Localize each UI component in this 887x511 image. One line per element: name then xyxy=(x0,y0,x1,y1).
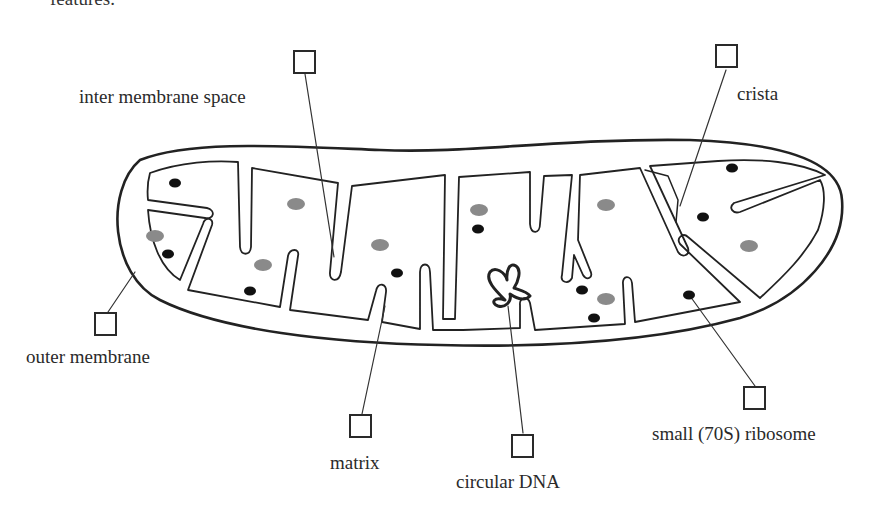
circular-dna-answer-box[interactable] xyxy=(511,434,534,458)
inter-membrane-space-answer-box[interactable] xyxy=(293,50,316,74)
small-ribosome-answer-box[interactable] xyxy=(743,386,766,410)
label-inter-membrane-space: inter membrane space xyxy=(79,86,246,108)
label-circular-dna: circular DNA xyxy=(456,471,560,493)
label-outer-membrane: outer membrane xyxy=(26,346,150,368)
ribosomes xyxy=(162,164,738,323)
label-crista: crista xyxy=(737,83,778,105)
outer-membrane-answer-box[interactable] xyxy=(94,312,117,336)
inner-membrane-shape xyxy=(148,160,825,330)
label-matrix: matrix xyxy=(330,452,380,474)
label-small-ribosome: small (70S) ribosome xyxy=(652,423,816,445)
crista-answer-box[interactable] xyxy=(715,44,738,68)
matrix-answer-box[interactable] xyxy=(349,414,372,438)
leader-lines xyxy=(108,70,755,433)
granules xyxy=(146,198,758,305)
circular-dna-shape xyxy=(489,265,530,306)
